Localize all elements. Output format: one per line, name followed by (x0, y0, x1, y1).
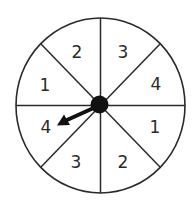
sector-label-bottom-right: 2 (118, 152, 129, 172)
spinner-hub (91, 96, 109, 114)
sector-label-right-upper: 4 (151, 74, 162, 94)
sector-label-bottom-left: 3 (71, 152, 82, 172)
sector-label-left-lower: 4 (41, 117, 52, 137)
sector-label-right-lower: 1 (150, 117, 161, 137)
sector-label-top-right: 3 (118, 42, 129, 62)
spinner-diagram: 2 3 4 1 2 3 4 1 (0, 0, 195, 204)
sector-label-top-left: 2 (72, 42, 83, 62)
sector-label-left-upper: 1 (40, 75, 51, 95)
